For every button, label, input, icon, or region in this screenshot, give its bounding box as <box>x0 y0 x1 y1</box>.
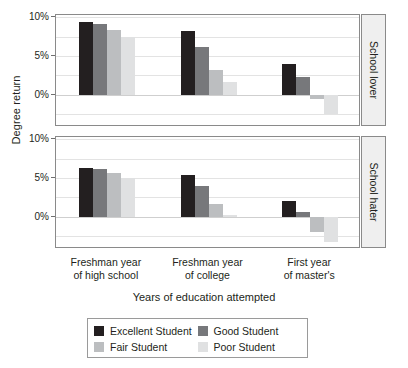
legend-row: Fair Student Poor Student <box>94 339 301 355</box>
legend: Excellent Student Good Student Fair Stud… <box>87 318 308 358</box>
bar <box>282 64 296 95</box>
plot-area-school-hater <box>56 137 359 247</box>
y-tick-label: 10% <box>9 12 49 22</box>
x-tick-label: Freshman yearof high school <box>51 256 161 282</box>
y-axis-title: Degree return <box>10 50 22 170</box>
bar <box>209 70 223 95</box>
bar <box>93 24 107 94</box>
x-tick-label: First yearof master's <box>254 256 364 282</box>
bar-group <box>282 15 338 125</box>
bar <box>93 169 107 217</box>
bar <box>107 173 121 216</box>
legend-label-fair: Fair Student <box>110 341 167 353</box>
legend-item-excellent-student: Excellent Student <box>94 325 198 337</box>
legend-swatch-icon-fair <box>94 342 104 352</box>
bar-group <box>79 137 135 247</box>
panel-school-hater <box>55 136 360 248</box>
plot-area-school-lover <box>56 15 359 125</box>
bar-group <box>79 15 135 125</box>
strip-label-school-hater: School hater <box>361 136 386 248</box>
x-tick-label: Freshman yearof college <box>153 256 263 282</box>
bar <box>296 212 310 217</box>
y-tick-label: 10% <box>9 134 49 144</box>
bar-group <box>181 137 237 247</box>
bar <box>195 47 209 95</box>
panel-school-lover <box>55 14 360 126</box>
chart-root: Degree return 10%5%0%10%5%0% School love… <box>0 0 408 368</box>
strip-label-school-lover: School lover <box>361 14 386 126</box>
bar <box>324 95 338 114</box>
bar <box>79 168 93 217</box>
legend-item-fair-student: Fair Student <box>94 341 198 353</box>
legend-swatch-icon-excellent <box>94 326 104 336</box>
x-axis-title: Years of education attempted <box>0 291 408 303</box>
bar <box>107 30 121 95</box>
bar <box>121 178 135 217</box>
legend-item-poor-student: Poor Student <box>198 341 302 353</box>
bar <box>223 215 237 217</box>
y-tick-label: 0% <box>9 212 49 222</box>
bar <box>209 204 223 216</box>
y-tick-label: 5% <box>9 51 49 61</box>
bar <box>223 82 237 95</box>
bar <box>310 95 324 100</box>
bar <box>296 77 310 95</box>
legend-row: Excellent Student Good Student <box>94 323 301 339</box>
y-tick-label: 0% <box>9 90 49 100</box>
bar <box>181 175 195 217</box>
y-tick-label: 5% <box>9 173 49 183</box>
bar-group <box>181 15 237 125</box>
legend-label-excellent: Excellent Student <box>110 325 192 337</box>
strip-label-text-bottom: School hater <box>368 163 380 222</box>
bar <box>121 37 135 94</box>
legend-label-poor: Poor Student <box>214 341 275 353</box>
bar <box>324 217 338 243</box>
legend-item-good-student: Good Student <box>198 325 302 337</box>
bar <box>310 217 324 232</box>
legend-label-good: Good Student <box>214 325 279 337</box>
bar <box>282 201 296 216</box>
bar-group <box>282 137 338 247</box>
legend-swatch-icon-good <box>198 326 208 336</box>
bar <box>195 186 209 217</box>
bar <box>181 31 195 95</box>
strip-label-text-top: School lover <box>368 41 380 99</box>
bar <box>79 22 93 95</box>
legend-swatch-icon-poor <box>198 342 208 352</box>
